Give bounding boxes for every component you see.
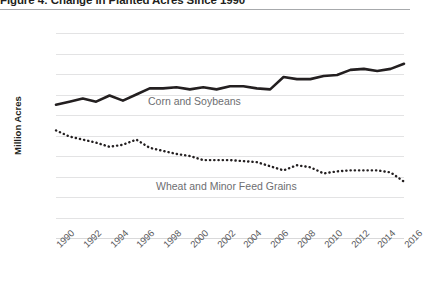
- figure-title: Figure 4: Change in Planted Acres Since …: [0, 0, 410, 8]
- x-tick-label-2016: 2016: [402, 228, 424, 250]
- series-layer: [56, 33, 404, 238]
- plot-area: 020406080100120140160180200 199019921994…: [56, 33, 404, 238]
- title-divider-rule: [0, 9, 410, 10]
- series-label-wheat-and-minor-feed-grains: Wheat and Minor Feed Grains: [156, 180, 297, 192]
- series-label-corn-and-soybeans: Corn and Soybeans: [148, 95, 241, 107]
- y-axis-title: Million Acres: [12, 81, 23, 171]
- series-line-wheat-and-minor-feed-grains: [56, 130, 404, 181]
